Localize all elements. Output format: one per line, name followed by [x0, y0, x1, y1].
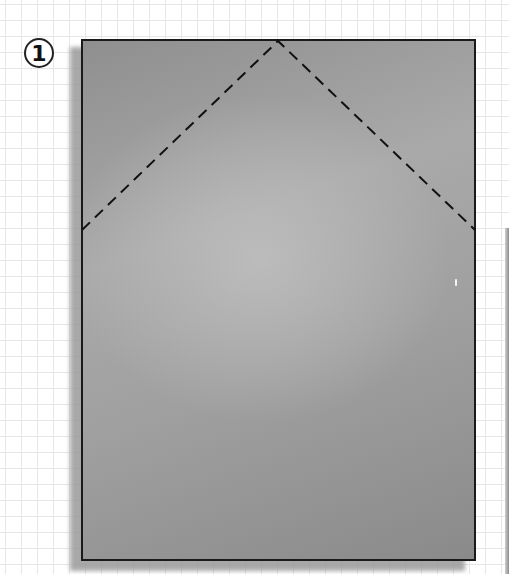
- dashed-fold-line: [82, 41, 475, 230]
- small-mark: [455, 279, 457, 286]
- fold-lines: [0, 0, 509, 574]
